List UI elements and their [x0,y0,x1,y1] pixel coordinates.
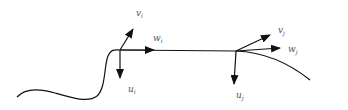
label-w-j-sub: j [296,48,298,55]
label-w-i-sub: i [161,37,163,44]
label-w-i-base: w [153,33,161,43]
label-v-j: vj [278,26,285,36]
label-u-i: ui [128,85,136,95]
curve-diagram [0,0,348,110]
label-v-i-sub: i [141,12,143,19]
vector-v-i-arrow [120,29,133,50]
label-w-j-base: w [288,44,296,54]
label-u-j-sub: j [242,94,244,101]
label-u-j: uj [236,91,244,101]
label-w-j: wj [288,45,298,55]
frame-j [234,35,280,84]
label-v-i: vi [136,9,143,19]
label-w-i: wi [153,34,163,44]
label-u-i-sub: i [134,88,136,95]
trajectory-curve [17,50,310,100]
frame-i [120,29,154,78]
vector-u-j-arrow [234,51,236,84]
label-v-j-sub: j [283,29,285,36]
